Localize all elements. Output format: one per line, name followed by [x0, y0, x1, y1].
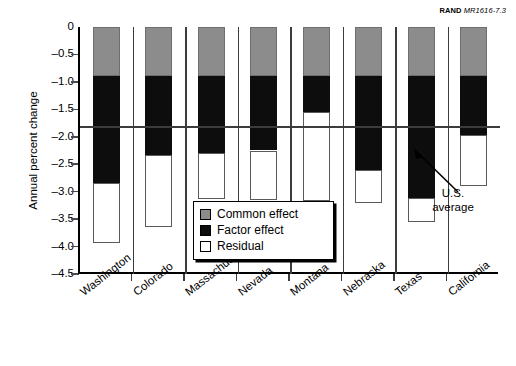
category-separator — [395, 27, 397, 274]
legend-label-common-effect: Common effect — [217, 208, 298, 220]
legend-label-residual: Residual — [217, 240, 264, 252]
legend-swatch-residual — [200, 241, 211, 252]
chart-legend: Common effect Factor effect Residual — [193, 201, 334, 260]
us-average-line2: average — [421, 200, 485, 214]
bar-segment-common-effect[interactable] — [145, 27, 172, 76]
bar-segment-common-effect[interactable] — [355, 27, 382, 76]
legend-swatch-common-effect — [200, 209, 211, 220]
legend-swatch-factor-effect — [200, 225, 211, 236]
bar-california[interactable] — [460, 27, 487, 274]
x-tick-mark — [236, 274, 238, 281]
bar-segment-residual[interactable] — [93, 183, 120, 243]
legend-label-factor-effect: Factor effect — [217, 224, 283, 236]
x-tick-mark — [341, 274, 343, 281]
chart-figure: RAND MR1616-7.3 Annual percent change 0–… — [0, 0, 516, 366]
legend-item-factor-effect: Factor effect — [200, 222, 327, 238]
bar-texas[interactable] — [408, 27, 435, 274]
us-average-line1: U.S. — [421, 186, 485, 200]
bar-colorado[interactable] — [145, 27, 172, 274]
bar-segment-factor-effect[interactable] — [250, 76, 277, 151]
bar-segment-factor-effect[interactable] — [198, 76, 225, 153]
category-separator — [343, 27, 345, 274]
bar-segment-residual[interactable] — [250, 151, 277, 201]
x-tick-mark — [131, 274, 133, 281]
x-tick-mark — [288, 274, 290, 281]
bar-segment-factor-effect[interactable] — [93, 76, 120, 183]
bar-segment-residual[interactable] — [145, 155, 172, 227]
category-separator — [185, 27, 187, 274]
x-tick-mark — [393, 274, 395, 281]
bar-segment-factor-effect[interactable] — [355, 76, 382, 170]
y-axis-title: Annual percent change — [22, 27, 44, 274]
bar-segment-common-effect[interactable] — [93, 27, 120, 76]
us-average-line — [80, 126, 500, 128]
bar-segment-common-effect[interactable] — [408, 27, 435, 76]
bar-segment-factor-effect[interactable] — [303, 76, 330, 112]
bar-segment-common-effect[interactable] — [198, 27, 225, 76]
bar-segment-factor-effect[interactable] — [145, 76, 172, 155]
source-doc-number: MR1616-7.3 — [464, 6, 506, 15]
category-separator — [448, 27, 450, 274]
bar-segment-common-effect[interactable] — [303, 27, 330, 76]
bar-segment-residual[interactable] — [198, 153, 225, 200]
us-average-annotation-text: U.S. average — [421, 186, 485, 214]
bar-segment-residual[interactable] — [355, 170, 382, 202]
x-tick-mark — [446, 274, 448, 281]
bar-segment-common-effect[interactable] — [250, 27, 277, 76]
legend-item-residual: Residual — [200, 238, 327, 254]
legend-item-common-effect: Common effect — [200, 206, 327, 222]
source-credit: RAND MR1616-7.3 — [439, 7, 506, 15]
bar-segment-residual[interactable] — [460, 135, 487, 186]
source-org: RAND — [439, 6, 461, 15]
x-axis-label-texas: Texas — [394, 271, 425, 299]
bar-segment-factor-effect[interactable] — [408, 76, 435, 198]
x-tick-mark — [183, 274, 185, 281]
bar-nebraska[interactable] — [355, 27, 382, 274]
category-separator — [133, 27, 135, 274]
bar-segment-common-effect[interactable] — [460, 27, 487, 76]
bar-washington[interactable] — [93, 27, 120, 274]
